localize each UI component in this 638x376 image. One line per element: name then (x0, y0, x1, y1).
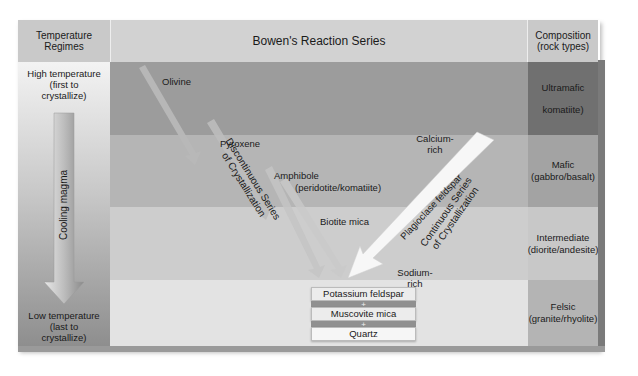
olivine-label: Olivine (162, 76, 191, 87)
biotite-label: Biotite mica (320, 216, 369, 227)
amphibole-label: Amphibole (274, 170, 319, 181)
amphibole-note-label: (peridotite/komatiite) (295, 182, 381, 193)
calcium-line1: Calcium- (410, 133, 460, 144)
calcium-line2: rich (410, 144, 460, 155)
potassium-feldspar-box: Potassium feldspar (311, 287, 416, 301)
cooling-magma-label: Cooling magma (58, 170, 69, 240)
sodium-rich-label: Sodium- rich (390, 267, 440, 289)
bowens-reaction-diagram: Temperature Regimes Bowen's Reaction Ser… (18, 20, 600, 350)
sodium-line1: Sodium- (390, 267, 440, 278)
calcium-rich-label: Calcium- rich (410, 133, 460, 155)
quartz-box: Quartz (311, 327, 416, 341)
muscovite-mica-box: Muscovite mica (311, 307, 416, 321)
